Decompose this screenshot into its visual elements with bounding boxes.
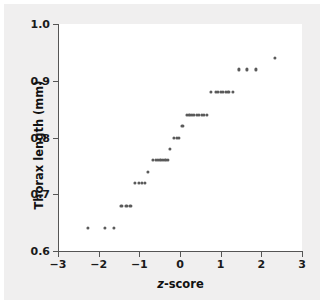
y-tick-mark <box>53 24 58 25</box>
x-axis-title-italic: z <box>157 277 164 291</box>
x-tick-mark <box>180 252 181 257</box>
figure-edge-top <box>0 0 325 4</box>
y-tick-mark <box>53 194 58 195</box>
x-axis-title-rest: -score <box>164 277 204 291</box>
y-tick-mark <box>53 138 58 139</box>
y-tick-mark <box>53 81 58 82</box>
x-tick-mark <box>99 252 100 257</box>
y-axis-title: Thorax length (mm) <box>32 45 46 245</box>
x-tick-label: −1 <box>131 258 148 271</box>
x-tick-label: 0 <box>176 258 184 271</box>
x-tick-mark <box>58 252 59 257</box>
figure-edge-right <box>320 0 325 305</box>
x-tick-label: 2 <box>258 258 266 271</box>
y-tick-label: 1.0 <box>14 18 50 31</box>
x-tick-mark <box>261 252 262 257</box>
y-tick-label: 0.6 <box>14 245 50 258</box>
x-tick-label: −3 <box>50 258 67 271</box>
figure-edge-left <box>0 0 4 305</box>
y-tick-mark <box>53 251 58 252</box>
x-tick-mark <box>302 252 303 257</box>
figure-edge-bottom <box>0 300 325 305</box>
x-tick-label: 1 <box>217 258 225 271</box>
x-tick-mark <box>221 252 222 257</box>
x-axis-title: z-score <box>58 277 303 291</box>
x-tick-label: 3 <box>298 258 306 271</box>
x-tick-mark <box>139 252 140 257</box>
figure-container: −3−2−10123 0.60.70.80.91.0 Thorax length… <box>0 0 325 305</box>
y-axis-line <box>58 24 59 252</box>
x-tick-label: −2 <box>90 258 107 271</box>
